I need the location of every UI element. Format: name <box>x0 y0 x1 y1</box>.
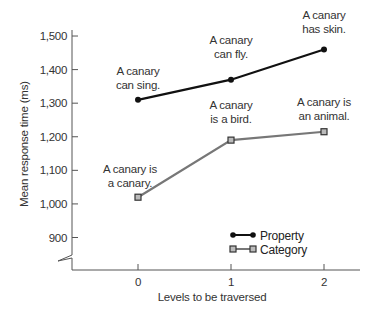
y-axis: 9001,0001,1001,2001,3001,4001,500 <box>40 30 78 270</box>
x-tick-label: 1 <box>228 276 234 288</box>
y-tick-label: 1,100 <box>40 164 67 176</box>
data-point-circle <box>321 46 327 52</box>
x-axis-title: Levels to be traversed <box>158 291 267 303</box>
annotation-text: can fly. <box>214 48 248 60</box>
legend-item-property: Property <box>230 229 304 243</box>
annotation-text: A canary <box>302 9 346 21</box>
legend: PropertyCategory <box>230 229 307 257</box>
annotation-text: has skin. <box>302 23 346 35</box>
annotation-text: an animal. <box>298 110 349 122</box>
legend-marker-circle <box>250 232 256 238</box>
series-category <box>135 129 327 200</box>
annotation-text: A canary <box>116 65 160 77</box>
y-tick-label: 1,000 <box>40 198 67 210</box>
legend-label: Category <box>260 243 307 257</box>
x-tick-label: 2 <box>321 276 327 288</box>
data-point-square <box>135 194 141 200</box>
chart: 9001,0001,1001,2001,3001,4001,500 012 A … <box>0 0 375 320</box>
y-axis-title: Mean response time (ms) <box>18 81 30 207</box>
legend-item-category: Category <box>230 243 307 257</box>
annotation-text: A canary is <box>297 96 351 108</box>
y-tick-label: 1,200 <box>40 131 67 143</box>
x-axis: 012 <box>72 264 360 288</box>
legend-marker-square <box>230 246 236 252</box>
legend-label: Property <box>260 229 304 243</box>
data-point-circle <box>135 97 141 103</box>
annotation-text: A canary is <box>103 163 157 175</box>
annotation-text: is a bird. <box>210 113 251 125</box>
annotation-text: a canary. <box>108 177 153 189</box>
annotation-text: A canary <box>209 34 253 46</box>
y-tick-label: 1,300 <box>40 97 67 109</box>
data-point-circle <box>228 77 234 83</box>
annotation-text: can sing. <box>116 79 160 91</box>
x-tick-label: 0 <box>135 276 141 288</box>
y-tick-label: 900 <box>49 232 67 244</box>
legend-marker-circle <box>230 232 236 238</box>
y-tick-label: 1,400 <box>40 64 67 76</box>
annotation-text: A canary <box>209 99 253 111</box>
legend-marker-square <box>250 246 256 252</box>
data-point-square <box>321 129 327 135</box>
y-tick-label: 1,500 <box>40 30 67 42</box>
data-point-square <box>228 137 234 143</box>
